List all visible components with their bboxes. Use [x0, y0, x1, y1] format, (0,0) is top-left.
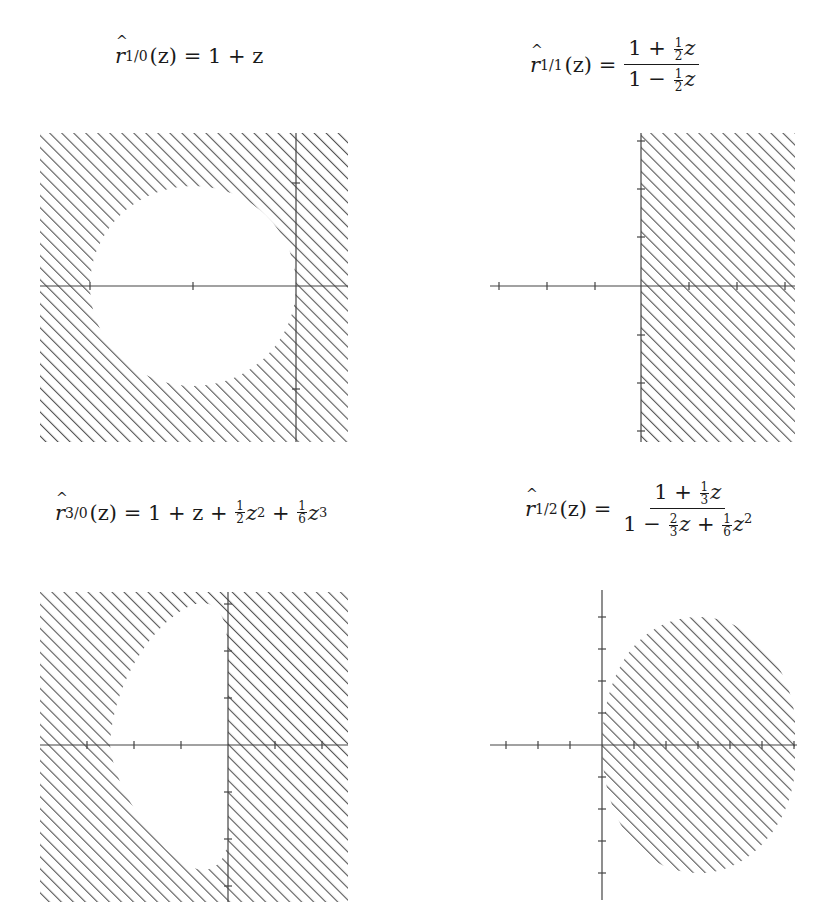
panel-r11	[490, 133, 795, 442]
panel-r12	[490, 590, 797, 900]
hatched-region	[641, 133, 795, 442]
hatched-unstable-region	[40, 592, 348, 902]
hatched-unstable-region	[40, 133, 348, 442]
stability-plots	[0, 0, 822, 924]
panel-r10	[40, 133, 348, 442]
panel-r30	[40, 592, 348, 902]
